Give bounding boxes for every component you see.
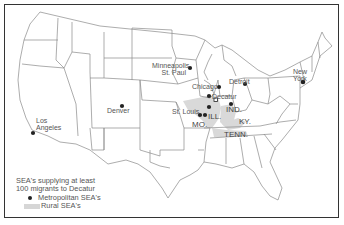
metropolitan-dot-icon [28,196,32,200]
state-label-ill: ILL. [208,113,221,121]
rural-swatch-icon [24,204,40,209]
label-decatur: Decatur [212,93,237,100]
map-legend: SEA's supplying at least 100 migrants to… [16,177,101,211]
label-los-angeles: LosAngeles [36,117,61,131]
metropolitan-dots [31,66,305,135]
state-label-mo: MO. [192,121,207,129]
label-chicago: Chicago [192,83,218,90]
state-label-ind: IND. [226,106,242,114]
label-detroit: Detroit [229,78,250,85]
state-borders [18,12,332,200]
dot-los-angeles [31,131,35,135]
label-denver: Denver [107,107,130,114]
dot-decatur-area-2 [207,105,211,109]
dot-decatur-area-1 [207,94,211,98]
state-label-ky: KY. [239,118,251,126]
label-minneapolis: MinneapolisSt. Paul [152,62,186,76]
dot-st-louis-2 [203,113,207,117]
state-label-tenn: TENN. [224,131,248,139]
legend-rural: Rural SEA's [16,202,101,210]
label-st-louis: St. Louis [172,108,199,115]
label-new-york: NewYork [288,68,312,82]
